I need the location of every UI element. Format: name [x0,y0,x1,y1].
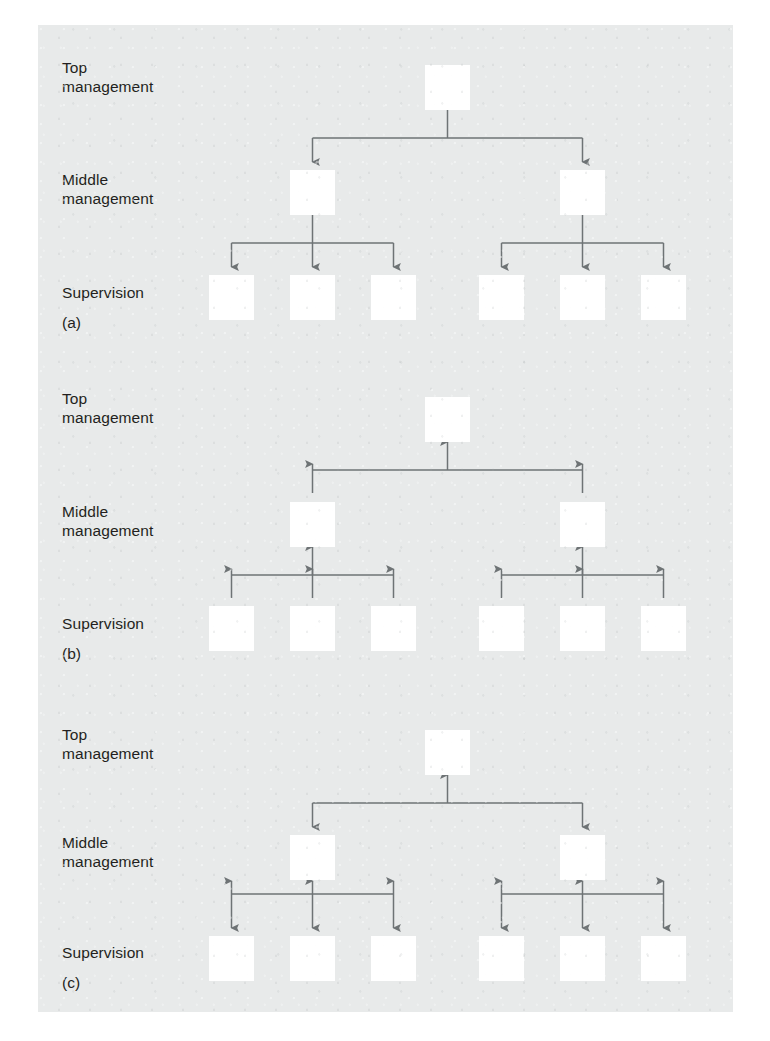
level-label-middle-management: Middle management [62,502,153,540]
level-label-middle-management: Middle management [62,170,153,208]
node-supervision-2 [290,275,335,320]
node-supervision-4 [479,606,524,651]
node-middle-management-2 [560,502,605,547]
node-supervision-6 [641,275,686,320]
node-top-management [425,65,470,110]
page-canvas: Top management Middle management Supervi… [0,0,770,1041]
diagram-c: Top management Middle management Supervi… [38,685,733,1012]
node-supervision-4 [479,275,524,320]
node-supervision-5 [560,936,605,981]
figure-caption-a: (a) [62,313,81,332]
diagram-a: Top management Middle management Supervi… [38,25,733,345]
figure-caption-c: (c) [62,973,80,992]
node-supervision-1 [209,275,254,320]
level-label-top-management: Top management [62,389,153,427]
node-supervision-2 [290,606,335,651]
level-label-supervision: Supervision [62,943,144,962]
node-supervision-2 [290,936,335,981]
node-middle-management-2 [560,170,605,215]
node-supervision-6 [641,606,686,651]
node-top-management [425,730,470,775]
node-middle-management-1 [290,170,335,215]
level-label-top-management: Top management [62,58,153,96]
node-supervision-1 [209,936,254,981]
node-supervision-5 [560,606,605,651]
node-middle-management-2 [560,835,605,880]
node-supervision-4 [479,936,524,981]
node-supervision-5 [560,275,605,320]
level-label-top-management: Top management [62,725,153,763]
node-supervision-3 [371,936,416,981]
node-top-management [425,397,470,442]
node-supervision-3 [371,275,416,320]
node-supervision-3 [371,606,416,651]
node-middle-management-1 [290,835,335,880]
level-label-supervision: Supervision [62,283,144,302]
node-supervision-1 [209,606,254,651]
level-label-supervision: Supervision [62,614,144,633]
node-middle-management-1 [290,502,335,547]
figure-caption-b: (b) [62,644,81,663]
diagram-b: Top management Middle management Supervi… [38,345,733,685]
figure-panel: Top management Middle management Supervi… [38,25,733,1012]
node-supervision-6 [641,936,686,981]
level-label-middle-management: Middle management [62,833,153,871]
